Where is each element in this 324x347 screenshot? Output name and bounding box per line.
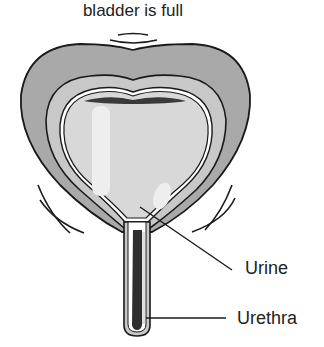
label-urethra: Urethra: [237, 308, 297, 329]
label-urine: Urine: [245, 258, 288, 279]
vibration-arcs-top-icon: [110, 34, 157, 44]
highlight-left: [92, 106, 110, 196]
urethra-tube: [124, 222, 150, 336]
urine-leader-line: [140, 207, 232, 270]
bladder-diagram: [0, 0, 324, 347]
